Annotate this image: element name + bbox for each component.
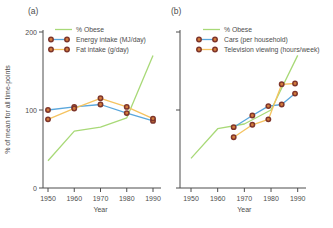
x-tick-label: 1990	[290, 195, 306, 202]
legend-marker	[49, 37, 53, 41]
x-tick-label: 1950	[40, 195, 56, 202]
legend-swatch	[46, 35, 72, 44]
data-point-marker	[72, 106, 76, 110]
y-tick-label: 0	[33, 185, 37, 192]
data-point-marker	[46, 117, 50, 121]
legend-marker	[213, 37, 217, 41]
figure: (a) % of mean for all time-points % Obes…	[0, 0, 333, 228]
legend-label: Fat intake (g/day)	[76, 46, 129, 53]
legend-marker	[197, 37, 201, 41]
data-point-marker	[266, 117, 270, 121]
panel-b-label: (b)	[171, 6, 181, 16]
legend-marker	[197, 47, 201, 51]
data-point-marker	[279, 102, 283, 106]
x-tick-label: 1970	[93, 195, 109, 202]
legend-item: % Obese	[194, 24, 320, 34]
legend-item: Energy intake (MJ/day)	[46, 34, 146, 44]
data-point-marker	[279, 82, 283, 86]
y-tick-label: 200	[25, 29, 37, 36]
panel-a-label: (a)	[28, 6, 38, 16]
data-point-marker	[250, 123, 254, 127]
x-tick-label: 1990	[145, 195, 161, 202]
data-point-marker	[98, 96, 102, 100]
data-point-marker	[250, 113, 254, 117]
x-tick-label: 1960	[210, 195, 226, 202]
legend-swatch	[46, 25, 72, 34]
legend-swatch	[46, 45, 72, 54]
series-line	[234, 84, 295, 138]
y-tick-label: 100	[25, 107, 37, 114]
data-point-marker	[293, 81, 297, 85]
legend-swatch	[194, 35, 220, 44]
legend-item: Cars (per household)	[194, 34, 320, 44]
x-tick-label: 1980	[119, 195, 135, 202]
data-point-marker	[125, 111, 129, 115]
x-tick-label: 1960	[66, 195, 82, 202]
data-point-marker	[293, 91, 297, 95]
x-tick-label: 1970	[237, 195, 253, 202]
data-point-marker	[266, 104, 270, 108]
legend-item: % Obese	[46, 24, 146, 34]
legend-marker	[213, 47, 217, 51]
legend-label: Cars (per household)	[224, 36, 288, 43]
legend-label: % Obese	[224, 26, 252, 33]
data-point-marker	[231, 135, 235, 139]
y-axis-label: % of mean for all time-points	[4, 50, 13, 170]
x-tick-label: 1950	[183, 195, 199, 202]
x-axis-label: Year	[237, 206, 252, 213]
legend-swatch	[194, 45, 220, 54]
legend-swatch	[194, 25, 220, 34]
data-point-marker	[98, 102, 102, 106]
legend-marker	[65, 37, 69, 41]
data-point-marker	[125, 105, 129, 109]
x-tick-label: 1980	[263, 195, 279, 202]
legend-marker	[49, 47, 53, 51]
legend-b: % ObeseCars (per household)Television vi…	[194, 24, 320, 54]
legend-label: % Obese	[76, 26, 104, 33]
legend-a: % ObeseEnergy intake (MJ/day)Fat intake …	[46, 24, 146, 54]
legend-label: Energy intake (MJ/day)	[76, 36, 146, 43]
legend-item: Fat intake (g/day)	[46, 44, 146, 54]
panel-a: (a) % of mean for all time-points % Obes…	[0, 0, 166, 228]
legend-item: Television viewing (hours/week)	[194, 44, 320, 54]
legend-label: Television viewing (hours/week)	[224, 46, 320, 53]
panel-b: (b) % ObeseCars (per household)Televisio…	[166, 0, 333, 228]
x-axis-label: Year	[93, 206, 108, 213]
legend-marker	[65, 47, 69, 51]
data-point-marker	[46, 108, 50, 112]
series-line	[234, 94, 295, 128]
data-point-marker	[151, 116, 155, 120]
data-point-marker	[231, 125, 235, 129]
